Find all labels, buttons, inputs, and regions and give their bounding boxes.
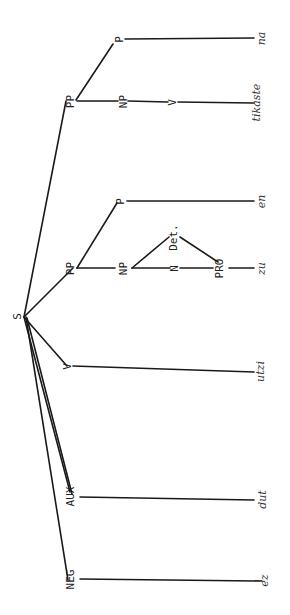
node-p-1: P: [114, 36, 125, 43]
leaf-na: na: [256, 32, 267, 46]
node-p-2: P: [115, 198, 126, 205]
node-v-1: V: [167, 99, 178, 106]
leaf-ez: ez: [259, 574, 270, 586]
node-np-2: NP: [118, 262, 129, 275]
leaf-tikaste: tikaste: [251, 84, 262, 122]
node-n: N: [169, 265, 180, 272]
leaf-zu: zu: [256, 262, 267, 275]
syntax-tree-lines: [0, 0, 290, 615]
node-np-1: NP: [118, 95, 129, 108]
node-s: S: [12, 313, 23, 320]
node-pp-2: PP: [65, 262, 76, 275]
node-v: V: [62, 363, 73, 370]
leaf-dut: dut: [257, 490, 268, 509]
leaf-utzi: utzi: [255, 361, 266, 382]
node-pro: PRO: [214, 259, 225, 279]
node-aux: AUX: [65, 487, 76, 507]
node-pp-1: PP: [65, 95, 76, 108]
leaf-en: en: [256, 195, 267, 209]
node-det: Det.: [168, 224, 179, 251]
node-neg: NEG: [65, 570, 76, 590]
